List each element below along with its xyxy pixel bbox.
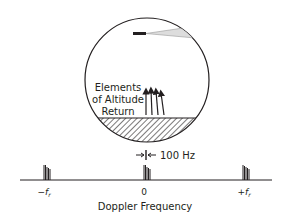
- tick-plus-fr: +fr: [237, 187, 251, 198]
- tick-zero: 0: [141, 187, 147, 197]
- resolution-label: 100 Hz: [160, 150, 195, 161]
- tick-minus-fr: −fr: [37, 187, 51, 198]
- label-elements: Elements: [95, 82, 142, 93]
- resolution-marker: [136, 150, 156, 160]
- label-return: Return: [101, 106, 134, 117]
- aircraft-icon: [133, 32, 146, 35]
- spectrum-line-zero: [144, 165, 150, 180]
- altitude-return-arrows-icon: [146, 90, 164, 115]
- ground-hatch: [80, 118, 220, 148]
- spectrum-line-plus-fr: [243, 165, 249, 180]
- altitude-return-diagram: Elements of Altitude Return 100 Hz −fr 0: [0, 0, 294, 220]
- label-of-altitude: of Altitude: [92, 94, 144, 105]
- axis-title: Doppler Frequency: [98, 201, 192, 212]
- spectrum-line-minus-fr: [44, 165, 50, 180]
